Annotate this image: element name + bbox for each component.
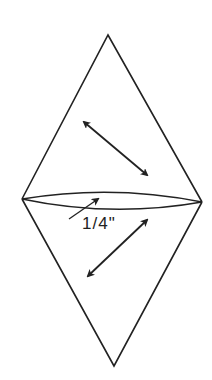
seam-lens-upper [22,192,202,202]
seam-lens-lower [22,199,202,209]
upper-grainline-arrow [84,122,147,175]
upper-triangle [22,35,202,202]
seam-allowance-label: 1/4" [82,214,116,234]
diamond-diagram [0,0,212,380]
